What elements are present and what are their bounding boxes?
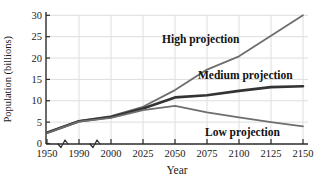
y-tick-label: 25 xyxy=(26,32,42,43)
y-tick-label: 5 xyxy=(26,118,42,129)
x-tick-label: 2100 xyxy=(223,149,255,160)
x-tick-label: 2075 xyxy=(191,149,223,160)
x-tick-label: 2050 xyxy=(159,149,191,160)
x-tick-label: 2125 xyxy=(255,149,287,160)
y-tick-label: 20 xyxy=(26,54,42,65)
series-label-high: High projection xyxy=(162,34,239,46)
y-axis-title: Population (billions) xyxy=(3,17,14,141)
population-projection-chart: Population (billions) Year High projecti… xyxy=(0,0,319,186)
x-tick-label: 2025 xyxy=(127,149,159,160)
x-tick-label: 1990 xyxy=(63,149,95,160)
x-tick-label: 2000 xyxy=(95,149,127,160)
x-tick-label: 2150 xyxy=(287,149,319,160)
y-tick-label: 30 xyxy=(26,11,42,22)
y-tick-label: 10 xyxy=(26,96,42,107)
y-tick-label: 15 xyxy=(26,75,42,86)
series-label-low: Low projection xyxy=(205,127,280,139)
series-label-medium: Medium projection xyxy=(198,70,293,82)
x-tick-label: 1950 xyxy=(31,149,63,160)
x-axis-title: Year xyxy=(145,165,209,177)
